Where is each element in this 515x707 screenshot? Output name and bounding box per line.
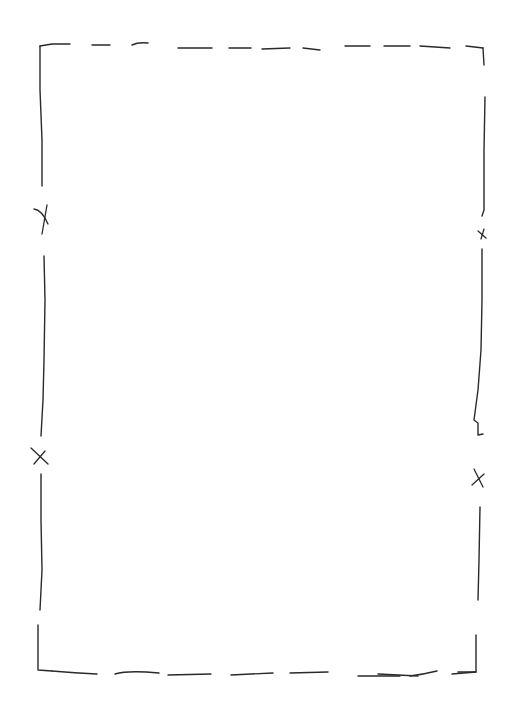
right-edge xyxy=(458,48,485,672)
sketch-canvas xyxy=(0,0,515,707)
bottom-edge-dashed xyxy=(52,671,476,676)
left-x-mark-upper xyxy=(34,205,48,234)
right-x-mark-upper xyxy=(478,229,486,239)
right-x-mark-lower xyxy=(472,469,484,487)
left-x-mark-lower xyxy=(31,448,48,464)
left-edge xyxy=(38,46,52,671)
top-edge-dashed xyxy=(40,43,483,50)
